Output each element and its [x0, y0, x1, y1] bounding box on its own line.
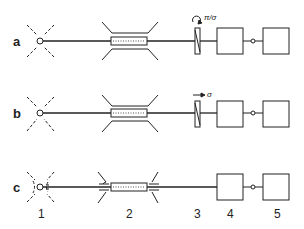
connector-icon [251, 111, 255, 115]
detector-4-a [217, 28, 243, 54]
row-b: b [13, 90, 289, 132]
circular-polarizer-3-a [193, 16, 203, 54]
atom-source-icon [37, 38, 43, 44]
atom-source-icon [37, 110, 43, 116]
detector-4-b [217, 101, 243, 127]
row-label-c: c [13, 180, 20, 195]
row-c: c [13, 172, 289, 203]
column-label-5: 5 [274, 207, 281, 221]
connector-icon [251, 185, 255, 189]
row-label-a: a [13, 34, 21, 49]
column-label-3: 3 [194, 207, 201, 221]
column-label-1: 1 [38, 207, 45, 221]
linear-polarizer-3-b [193, 93, 205, 127]
column-labels: 1 2 3 4 5 [38, 207, 281, 221]
column-label-2: 2 [126, 207, 133, 221]
row-a: a [13, 13, 289, 60]
atom-source-icon [37, 184, 43, 190]
column-label-4: 4 [227, 207, 234, 221]
source-1-b [27, 97, 54, 131]
polarization-annotation-b: σ [207, 90, 213, 99]
analyzer-5-b [263, 101, 289, 127]
analyzer-5-c [263, 174, 289, 200]
row-label-b: b [13, 106, 21, 121]
diagram-canvas: a [0, 0, 304, 229]
analyzer-5-a [263, 28, 289, 54]
detector-4-c [217, 174, 243, 200]
polarization-annotation-a: π/σ [204, 13, 218, 22]
connector-icon [251, 39, 255, 43]
